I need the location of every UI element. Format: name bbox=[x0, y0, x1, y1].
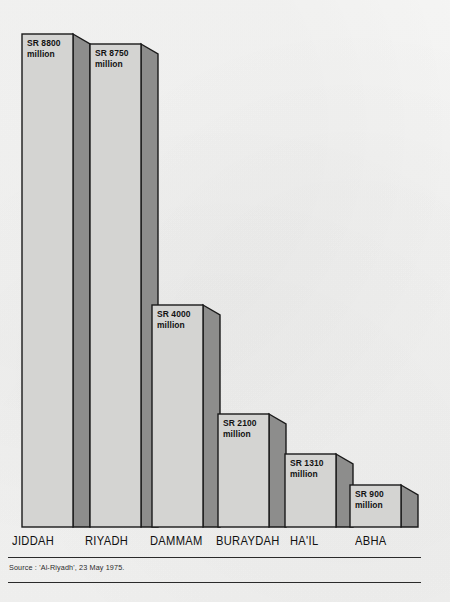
bar-jiddah-front-face bbox=[22, 34, 73, 527]
bar-riyadh bbox=[90, 44, 158, 527]
bar-dammam-front-face bbox=[152, 305, 203, 527]
category-label-jiddah: JIDDAH bbox=[12, 534, 54, 548]
divider-below-source bbox=[8, 582, 421, 583]
bar-jiddah-side-face bbox=[73, 34, 90, 527]
divider-above-source bbox=[8, 557, 421, 558]
category-label-riyadh: RIYADH bbox=[85, 534, 128, 548]
bars-svg bbox=[0, 0, 450, 602]
bar-dammam bbox=[152, 305, 220, 527]
bar-riyadh-front-face bbox=[90, 44, 141, 527]
category-label-dammam: DAMMAM bbox=[150, 534, 203, 548]
bar-buraydah-value-label: SR 2100 million bbox=[223, 418, 257, 439]
bar-riyadh-value-label: SR 8750 million bbox=[95, 48, 129, 69]
bar-dammam-value-label: SR 4000 million bbox=[157, 309, 191, 330]
bar-abha-side-face bbox=[401, 485, 418, 527]
category-label-abha: ABHA bbox=[355, 534, 387, 548]
category-label-hail: HA'IL bbox=[290, 534, 319, 548]
bar-jiddah-value-label: SR 8800 million bbox=[27, 38, 61, 59]
bar-jiddah bbox=[22, 34, 90, 527]
bar-abha-value-label: SR 900 million bbox=[355, 489, 384, 510]
bar-chart: SR 8800 millionJIDDAHSR 8750 millionRIYA… bbox=[0, 0, 450, 602]
category-label-buraydah: BURAYDAH bbox=[216, 534, 280, 548]
bar-buraydah-side-face bbox=[269, 414, 286, 527]
bar-hail-value-label: SR 1310 million bbox=[290, 458, 324, 479]
source-note: Source : 'Al-Riyadh', 23 May 1975. bbox=[9, 563, 124, 572]
